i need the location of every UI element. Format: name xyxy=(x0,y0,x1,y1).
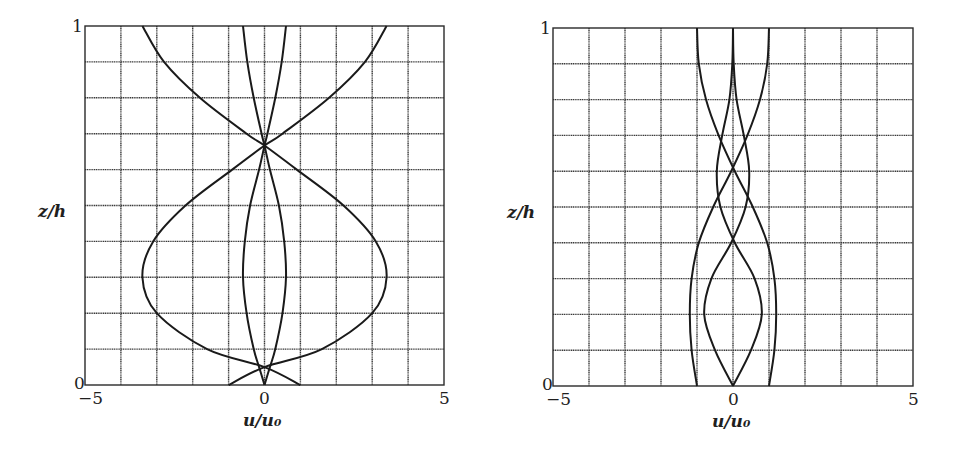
right-chart: 1 0 −5 0 5 z/h u/u₀ xyxy=(0,0,955,454)
right-x-axis-label: u/u₀ xyxy=(712,411,750,431)
right-y-axis-label: z/h xyxy=(507,202,535,222)
right-x-tick-min: −5 xyxy=(546,391,571,408)
right-grid xyxy=(553,28,913,386)
right-x-tick-max: 5 xyxy=(908,391,919,408)
right-plot-area xyxy=(0,0,955,454)
right-x-tick-zero: 0 xyxy=(728,391,739,408)
right-y-tick-top: 1 xyxy=(540,20,551,37)
